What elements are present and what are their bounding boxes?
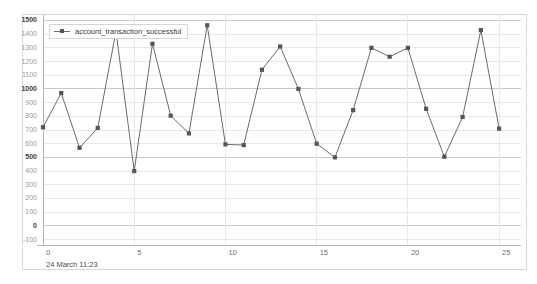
y-axis-tick-label: 1500 — [0, 16, 37, 24]
x-axis-tick-label: 15 — [320, 248, 328, 257]
y-axis-tick-label: 1300 — [0, 44, 37, 52]
y-axis-tick-label: 200 — [0, 194, 37, 202]
y-axis-tick-label: 900 — [0, 99, 37, 107]
legend-marker-icon — [54, 27, 70, 36]
y-axis-tick-label: 1200 — [0, 58, 37, 66]
x-axis-tick-label: 25 — [502, 248, 510, 257]
y-axis-tick-label: 500 — [0, 153, 37, 161]
chart-container: -100010020030040050060070080090010001100… — [0, 0, 537, 284]
x-axis-tick-label: 0 — [46, 248, 50, 257]
y-axis-tick-label: 0 — [0, 222, 37, 230]
y-axis-tick-label: 700 — [0, 126, 37, 134]
x-axis-tick-label: 5 — [137, 248, 141, 257]
x-axis-tick-label: 20 — [411, 248, 419, 257]
y-axis-tick-label: 100 — [0, 208, 37, 216]
chart-plot-frame — [22, 14, 527, 270]
y-axis-tick-label: -100 — [0, 236, 37, 244]
y-axis-tick-label: 1400 — [0, 30, 37, 38]
y-axis-tick-label: 400 — [0, 167, 37, 175]
y-axis-tick-label: 800 — [0, 112, 37, 120]
chart-legend[interactable]: account_transaction_successful — [49, 24, 188, 39]
y-axis-tick-label: 300 — [0, 181, 37, 189]
y-axis-tick-label: 1100 — [0, 71, 37, 79]
x-axis-tick-label: 10 — [228, 248, 236, 257]
legend-item-label: account_transaction_successful — [75, 27, 181, 36]
y-axis-tick-label: 1000 — [0, 85, 37, 93]
x-axis-caption: 24 March 11:23 — [46, 260, 98, 269]
y-axis-tick-label: 600 — [0, 140, 37, 148]
